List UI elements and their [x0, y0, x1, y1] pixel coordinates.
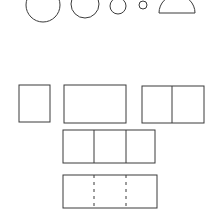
circle-small-shape — [110, 0, 126, 14]
shapes-diagram — [0, 0, 214, 220]
half-circle-shape — [159, 0, 195, 13]
circle-large-shape — [26, 0, 60, 22]
three-part-dashed-rectangle — [63, 175, 157, 208]
three-part-rectangle — [63, 130, 155, 163]
wide-rectangle — [64, 85, 126, 123]
circle-medium-shape — [71, 0, 99, 18]
circle-tiny-shape — [139, 1, 147, 9]
two-part-rectangle — [142, 86, 204, 123]
single-square — [19, 85, 50, 122]
